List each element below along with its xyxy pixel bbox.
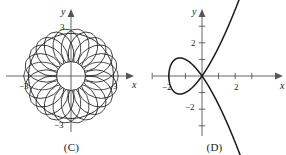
panel-d-y-axis-label: y (191, 6, 197, 17)
panel-d-plot: x y −2 2 2 −2 (143, 0, 286, 155)
panel-d: x y −2 2 2 −2 (D) (143, 0, 286, 155)
panel-d-ytick-neg2: −2 (185, 102, 195, 112)
panel-d-x-axis (153, 73, 283, 80)
panel-c: x y −3 3 3 −3 (C) (0, 0, 143, 155)
panel-d-x-axis-label: x (279, 80, 285, 91)
panel-c-ytick-3: 3 (60, 22, 65, 32)
panel-c-x-axis-label: x (131, 79, 137, 90)
panel-d-caption: (D) (143, 141, 286, 153)
panel-c-y-axis-label: y (60, 6, 66, 17)
panel-d-ytick-2: 2 (191, 38, 196, 48)
panel-c-caption: (C) (0, 141, 143, 153)
panel-c-xtick-neg3: −3 (19, 81, 29, 91)
panel-c-ytick-neg3: −3 (54, 120, 64, 130)
panel-d-xtick-neg2: −2 (162, 82, 172, 92)
panel-d-xtick-2: 2 (234, 82, 239, 92)
panel-c-xtick-3: 3 (113, 81, 118, 91)
figure-root: x y −3 3 3 −3 (C) (0, 0, 286, 155)
panel-c-plot: x y −3 3 3 −3 (0, 0, 143, 155)
